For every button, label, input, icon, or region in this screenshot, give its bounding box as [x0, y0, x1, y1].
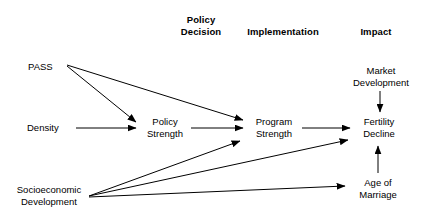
node-policy-strength: Policy Strength — [143, 116, 187, 139]
node-program-strength: Program Strength — [249, 116, 299, 139]
node-market-development: Market Development — [345, 65, 417, 88]
column-header-policy-decision: Policy Decision — [166, 14, 236, 37]
column-header-implementation: Implementation — [228, 26, 338, 38]
path-diagram: Policy Decision Implementation Impact PA… — [0, 0, 424, 222]
node-socioeconomic-development: Socioeconomic Development — [12, 184, 86, 207]
node-age-of-marriage: Age of Marriage — [352, 177, 404, 200]
node-density: Density — [27, 122, 73, 134]
column-header-impact: Impact — [345, 26, 407, 38]
edge-pass-to-program-strength — [67, 65, 243, 120]
node-pass: PASS — [28, 61, 64, 73]
node-fertility-decline: Fertility Decline — [355, 116, 403, 139]
edge-pass-to-policy-strength — [67, 66, 136, 122]
